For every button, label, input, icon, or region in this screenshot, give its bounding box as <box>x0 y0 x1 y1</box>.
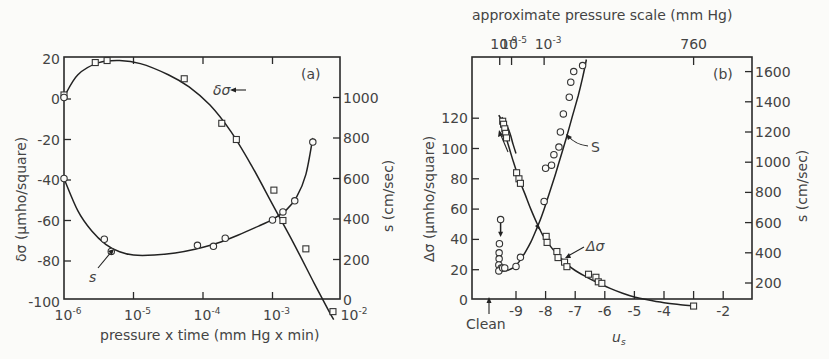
chart-a-s-point <box>61 94 67 100</box>
chart-a-delta-sigma-label: δσ <box>213 82 232 98</box>
chart-a-delta-sigma-arrowhead-icon <box>230 88 236 93</box>
chart-b-curves <box>498 60 693 307</box>
chart-b-s-point <box>548 162 554 168</box>
chart-a-s-point <box>310 139 316 145</box>
chart-a-x-tick-label-base: 10 <box>263 307 281 323</box>
chart-b-x-tick-label: -2 <box>716 303 730 319</box>
chart-b-s-point <box>566 94 572 100</box>
chart-a-left-tick-label: -60 <box>37 213 60 229</box>
figure-canvas: 10-610-510-410-310-2 200-20-40-60-80-100… <box>0 0 829 359</box>
chart-b-clean-label: Clean <box>466 316 506 332</box>
chart-b-top-tick-label-base: 10 <box>500 36 518 52</box>
chart-b-left-tick-label: 0 <box>459 292 468 308</box>
chart-a-right-tick-label: 0 <box>343 292 352 308</box>
chart-b-delta-sigma-point <box>586 271 592 277</box>
chart-b-s-point <box>502 265 508 271</box>
chart-b-x-label-subscript: s <box>621 337 626 347</box>
chart-a-panel-label: (a) <box>301 66 321 82</box>
chart-b-x-label-main: u <box>612 329 621 345</box>
chart-b-x-tick-label: -6 <box>598 303 612 319</box>
chart-b-x-label: us <box>612 329 626 347</box>
chart-b-s-point <box>496 256 502 262</box>
chart-a-delta-sigma-point <box>181 76 187 82</box>
chart-b-left-tick-label: 40 <box>450 231 468 247</box>
chart-b-s-point <box>557 129 563 135</box>
chart-b-s-point <box>542 165 548 171</box>
chart-b-right-tick-label: 1400 <box>755 94 791 110</box>
chart-a-x-tick-label-exponent: -3 <box>281 306 290 316</box>
chart-b-delta-sigma-point <box>543 233 549 239</box>
chart-b-left-tick-label: 120 <box>441 110 468 126</box>
chart-a-x-tick-label-exponent: -6 <box>72 306 81 316</box>
chart-a-s-point <box>269 217 275 223</box>
chart-b-left-tick-label: 60 <box>450 201 468 217</box>
chart-b-s-point <box>560 111 566 117</box>
chart-b-s-point <box>497 216 503 222</box>
chart-a-right-tick-label: 600 <box>343 171 370 187</box>
chart-b-s-point <box>551 151 557 157</box>
chart-b-delta-sigma-point <box>599 280 605 286</box>
chart-b-delta-sigma-point <box>555 255 561 261</box>
chart-b-s-point <box>556 144 562 150</box>
chart-b-title: approximate pressure scale (mm Hg) <box>472 7 732 23</box>
chart-b-left-axis: 020406080100120 <box>441 110 479 308</box>
chart-b-delta-sigma-point <box>544 239 550 245</box>
chart-a-x-tick-label: 10-4 <box>194 306 221 323</box>
chart-b-right-y-label: s (cm/sec) <box>794 150 810 222</box>
chart-b-top-pressure-axis: 10-910-510-3760 <box>490 35 707 65</box>
chart-a-right-tick-label: 400 <box>343 211 370 227</box>
chart-b-right-tick-label: 400 <box>755 245 782 261</box>
chart-a-delta-sigma-point <box>271 187 277 193</box>
chart-b-left-tick-label: 20 <box>450 262 468 278</box>
chart-b-top-tick-label: 760 <box>680 36 707 52</box>
chart-b-right-tick-label: 200 <box>755 275 782 291</box>
chart-a-s-point <box>280 209 286 215</box>
chart-a-right-tick-label: 1000 <box>343 90 379 106</box>
chart-a-left-tick-label: -80 <box>37 253 60 269</box>
chart-b-s-point <box>568 79 574 85</box>
chart-a-s-point <box>210 243 216 249</box>
chart-a-x-tick-label-base: 10 <box>124 307 142 323</box>
chart-a-x-tick-label-exponent: -5 <box>142 306 151 316</box>
chart-a-x-axis: 10-610-510-410-310-2 <box>55 57 368 323</box>
chart-b-delta-sigma-arrowhead-icon <box>565 253 571 258</box>
chart-b-right-tick-label: 1200 <box>755 124 791 140</box>
chart-a-x-label: pressure x time (mm Hg x min) <box>100 327 319 343</box>
chart-b-frame <box>472 57 752 299</box>
chart-b-top-tick-label: 10-3 <box>535 35 562 52</box>
chart-a-s-arrow <box>98 251 112 268</box>
chart-b-delta-sigma-label: Δσ <box>585 238 606 254</box>
chart-a-delta-sigma-curve <box>64 60 334 319</box>
chart-a-delta-sigma-point <box>330 309 336 315</box>
chart-b-s-point <box>579 62 585 68</box>
chart-b-clean-drop-arrowhead-icon <box>498 232 503 237</box>
chart-b: 10-910-510-3760 -9-8-7-6-5-4-2 020406080… <box>421 7 810 347</box>
chart-a-s-point <box>61 175 67 181</box>
chart-a-frame <box>64 57 340 299</box>
chart-b-x-tick-label: -4 <box>657 303 671 319</box>
chart-b-delta-sigma-arrow <box>568 247 584 256</box>
chart-a-right-tick-label: 800 <box>343 130 370 146</box>
chart-b-top-tick-label-exponent: -5 <box>518 35 527 45</box>
chart-a-left-tick-label: -100 <box>28 294 60 310</box>
chart-b-top-tick-label-exponent: -3 <box>553 35 562 45</box>
chart-b-x-tick-label: -8 <box>539 303 553 319</box>
chart-b-clean-arrowhead-icon <box>487 297 492 303</box>
chart-b-panel-label: (b) <box>713 66 733 82</box>
chart-a-left-tick-label: -40 <box>37 172 60 188</box>
chart-a-left-y-label: δσ (μmho/square) <box>13 137 29 262</box>
chart-a-left-tick-label: 20 <box>42 51 60 67</box>
chart-b-top-tick-label: 10-5 <box>500 35 527 52</box>
chart-a-left-tick-label: 0 <box>51 91 60 107</box>
chart-a-s-point <box>101 236 107 242</box>
chart-a-x-tick-label-exponent: -2 <box>358 306 367 316</box>
chart-a-s-point <box>292 198 298 204</box>
chart-a-delta-sigma-point <box>233 137 239 143</box>
chart-b-right-tick-label: 1600 <box>755 64 791 80</box>
chart-b-x-tick-label: -7 <box>568 303 582 319</box>
chart-b-right-tick-label: 600 <box>755 215 782 231</box>
chart-b-x-tick-label: -9 <box>509 303 523 319</box>
chart-b-delta-sigma-point <box>504 135 510 141</box>
chart-a-x-tick-label: 10-5 <box>124 306 151 323</box>
chart-a-right-y-label: s (cm/sec) <box>380 160 396 232</box>
